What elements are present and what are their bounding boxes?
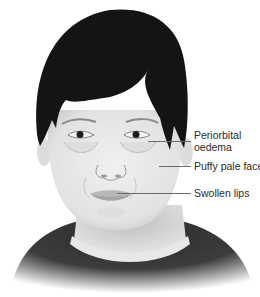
lips-leader-line — [117, 193, 191, 194]
periorbital-leader-line — [148, 141, 191, 142]
label-puffy-pale-face: Puffy pale face — [194, 160, 260, 172]
label-swollen-lips: Swollen lips — [194, 187, 249, 199]
label-periorbital-line2: oedema — [194, 141, 241, 153]
puffy-face-leader-line — [159, 166, 191, 167]
label-periorbital-oedema: Periorbital oedema — [194, 129, 241, 153]
label-periorbital-line1: Periorbital — [194, 129, 241, 141]
